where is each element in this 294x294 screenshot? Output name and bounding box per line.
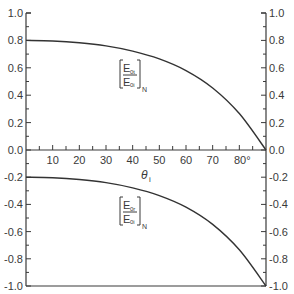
x-tick-label: 20 [73, 154, 85, 166]
x-axis-label-sub: i [149, 175, 151, 184]
right-bracket-icon [137, 60, 140, 88]
x-tick-label: 30 [100, 154, 112, 166]
right-bracket-icon [137, 197, 140, 225]
x-tick-label: 10 [47, 154, 59, 166]
reflection-label: E0rE0iN [120, 197, 147, 230]
y-tick-label-left: 0.4 [8, 89, 23, 101]
transmission-label: E0tE0iN [120, 60, 147, 93]
y-tick-label-left: -0.4 [4, 198, 23, 210]
y-tick-label-right: 0.6 [269, 62, 284, 74]
y-tick-label-right: 1.0 [269, 7, 284, 19]
y-tick-label-left: 0.8 [8, 34, 23, 46]
y-tick-label-left: -0.2 [4, 171, 23, 183]
numerator-sub: 0t [130, 69, 135, 75]
y-tick-label-right: 0.2 [269, 117, 284, 129]
y-tick-label-right: 0.0 [269, 144, 284, 156]
y-tick-label-right: 0.8 [269, 34, 284, 46]
numerator-sub: 0r [130, 206, 135, 212]
y-tick-label-right: -0.6 [269, 226, 288, 238]
y-tick-label-left: -0.8 [4, 253, 23, 265]
outer-sub: N [142, 223, 147, 230]
denominator-sub: 0i [130, 219, 135, 225]
y-tick-label-left: 1.0 [8, 7, 23, 19]
x-tick-label: 40 [127, 154, 139, 166]
y-tick-label-left: 0.6 [8, 62, 23, 74]
y-tick-label-left: 0.0 [8, 144, 23, 156]
y-tick-label-right: -0.2 [269, 171, 288, 183]
x-tick-label: 50 [153, 154, 165, 166]
x-tick-label: 70 [207, 154, 219, 166]
outer-sub: N [142, 86, 147, 93]
y-tick-label-left: 0.2 [8, 117, 23, 129]
reflection-curve [26, 177, 266, 286]
y-tick-label-right: -1.0 [269, 280, 288, 292]
x-tick-label: 80° [234, 154, 251, 166]
x-axis-label: θ [141, 168, 148, 182]
y-tick-label-left: -1.0 [4, 280, 23, 292]
y-tick-label-right: -0.8 [269, 253, 288, 265]
fresnel-coefficient-chart: 0.00.00.20.20.40.40.60.60.80.81.01.0-0.2… [0, 0, 294, 294]
denominator-sub: 0i [130, 82, 135, 88]
y-tick-label-right: 0.4 [269, 89, 284, 101]
transmission-curve [26, 40, 266, 150]
curve-labels: E0tE0iNE0rE0iN [120, 60, 147, 230]
y-tick-label-right: -0.4 [269, 198, 288, 210]
y-tick-label-left: -0.6 [4, 226, 23, 238]
x-tick-label: 60 [180, 154, 192, 166]
curves [26, 40, 266, 286]
